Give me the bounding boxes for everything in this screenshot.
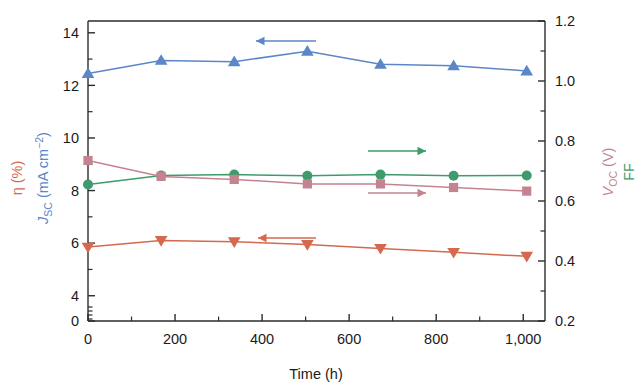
right-axis-ticks xyxy=(538,21,545,321)
voc-axis-title-unit: (V) xyxy=(600,148,616,171)
left-tick-label: 0 xyxy=(71,313,79,329)
x-tick-label: 800 xyxy=(424,331,448,347)
arrow-head xyxy=(418,147,427,156)
axis-pointer-arrow xyxy=(368,147,426,156)
data-point-marker xyxy=(447,59,460,70)
x-tick-label: 200 xyxy=(163,331,187,347)
data-point-marker xyxy=(375,170,385,180)
ff-axis-title-text: FF xyxy=(621,163,637,181)
left-tick-label: 12 xyxy=(63,78,79,94)
data-series-layer xyxy=(82,45,533,262)
data-point-marker xyxy=(376,179,385,188)
right-axis-ticklabels: 0.20.40.60.81.01.2 xyxy=(555,13,575,329)
x-tick-label: 1,000 xyxy=(505,331,541,347)
series-1 xyxy=(82,45,533,78)
right-tick-label: 0.6 xyxy=(555,193,575,209)
jsc-axis-title-close: ) xyxy=(35,132,51,137)
x-axis-title-text: Time (h) xyxy=(289,366,342,382)
voc-axis-title: VOC (V) xyxy=(600,148,619,197)
series-4 xyxy=(82,236,533,262)
right-tick-label: 0.8 xyxy=(555,133,575,149)
jsc-axis-title-sub: SC xyxy=(42,202,54,217)
left-tick-label: 14 xyxy=(63,25,79,41)
ff-axis-title: FF xyxy=(621,163,637,181)
data-point-marker xyxy=(301,45,314,56)
arrow-head xyxy=(418,189,427,198)
x-tick-label: 400 xyxy=(250,331,274,347)
x-tick-label: 0 xyxy=(84,331,92,347)
jsc-axis-title-sup: −2 xyxy=(33,137,45,149)
right-tick-label: 0.4 xyxy=(555,253,575,269)
voc-axis-title-sub: OC xyxy=(607,171,619,187)
data-point-marker xyxy=(522,171,532,181)
data-point-marker xyxy=(155,54,168,65)
right-tick-label: 0.2 xyxy=(555,313,575,329)
left-tick-label: 10 xyxy=(63,130,79,146)
data-point-marker xyxy=(230,175,239,184)
left-tick-label: 4 xyxy=(71,288,79,304)
axis-pointer-arrows xyxy=(256,37,426,243)
data-point-marker xyxy=(303,179,312,188)
data-point-marker xyxy=(83,180,93,190)
x-axis-ticklabels: 02004006008001,000 xyxy=(84,331,541,347)
axis-frame xyxy=(88,21,545,321)
x-tick-label: 600 xyxy=(337,331,361,347)
data-point-marker xyxy=(449,183,458,192)
left-tick-label: 6 xyxy=(71,235,79,251)
arrow-head xyxy=(258,234,267,243)
data-point-marker xyxy=(449,171,459,181)
svg-text:VOC (V): VOC (V) xyxy=(600,148,619,197)
jsc-axis-title: JSC (mA cm−2) xyxy=(33,132,54,225)
data-point-marker xyxy=(82,243,95,254)
data-point-marker xyxy=(83,156,92,165)
chart-canvas: 0468101214 0.20.40.60.81.01.2 0200400600… xyxy=(0,0,638,386)
right-tick-label: 1.2 xyxy=(555,13,575,29)
eta-axis-title: η (%) xyxy=(9,161,25,196)
svg-text:JSC (mA cm−2): JSC (mA cm−2) xyxy=(33,132,54,225)
x-axis-ticks xyxy=(88,314,523,321)
stability-chart-figure: 0468101214 0.20.40.60.81.01.2 0200400600… xyxy=(0,0,638,386)
jsc-axis-title-unit: (mA cm xyxy=(35,149,51,202)
axis-pointer-arrow xyxy=(368,189,426,198)
left-tick-label: 8 xyxy=(71,183,79,199)
eta-axis-title-text: η (%) xyxy=(9,161,25,196)
data-point-marker xyxy=(157,172,166,181)
left-axis-ticklabels: 0468101214 xyxy=(63,25,79,329)
data-point-marker xyxy=(522,187,531,196)
data-point-marker xyxy=(520,252,533,263)
x-axis-title: Time (h) xyxy=(289,366,342,382)
right-tick-label: 1.0 xyxy=(555,73,575,89)
arrow-head xyxy=(256,37,265,46)
axis-pointer-arrow xyxy=(256,37,316,46)
